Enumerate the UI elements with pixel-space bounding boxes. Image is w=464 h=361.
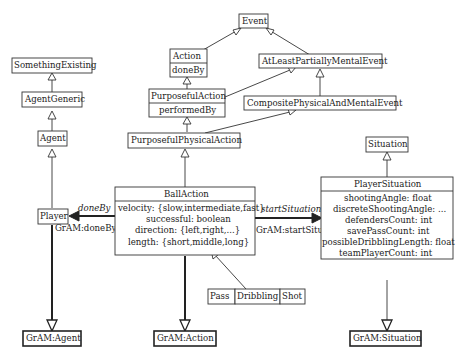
class-purposeful-action: PurposefulAction performedBy <box>149 89 226 117</box>
subtypes-box: Pass Dribbling Shot <box>208 289 305 304</box>
svg-text:Agent: Agent <box>39 133 66 143</box>
generalization-arrow-icon <box>266 28 274 35</box>
svg-text:Situation: Situation <box>368 139 408 149</box>
class-gram-action: GrAM:Action <box>154 331 216 346</box>
generalization-arrow-icon <box>48 111 56 119</box>
class-event: Event <box>239 14 268 28</box>
ball-action-attr: direction: {left,right,...} <box>135 225 240 235</box>
svg-text:Event: Event <box>242 16 268 26</box>
svg-text:doneBy: doneBy <box>172 65 205 75</box>
svg-text:CompositePhysicalAndMentalEven: CompositePhysicalAndMentalEvent <box>247 98 403 108</box>
svg-text:GrAM:Agent: GrAM:Agent <box>26 333 81 343</box>
class-situation: Situation <box>366 137 408 152</box>
ball-action-attr: length: {short,middle,long} <box>128 237 249 247</box>
player-situation-attr: discreteShootingAngle: ... <box>333 204 446 214</box>
ball-action-attr: successful: boolean <box>146 214 231 224</box>
generalization-arrow-icon <box>383 152 391 160</box>
class-at-least-partially-mental-event: AtLeastPartiallyMentalEvent <box>259 54 388 68</box>
class-something-existing: SomethingExisting <box>12 58 97 73</box>
player-situation-attr: teamPlayerCount: int <box>339 248 433 258</box>
svg-text:SomethingExisting: SomethingExisting <box>14 60 97 70</box>
ball-action-attr: velocity: {slow,intermediate,fast} <box>117 203 265 213</box>
edge-subtypes-ballaction <box>215 255 246 289</box>
subtype-shot: Shot <box>282 291 303 301</box>
svg-text:GrAM:Situation: GrAM:Situation <box>353 333 422 343</box>
doneby-mapping-label: GrAM:doneBy <box>55 223 116 233</box>
subtype-pass: Pass <box>210 291 229 301</box>
player-situation-attr: shootingAngle: float <box>344 193 432 203</box>
edge-mental-event <box>269 30 310 55</box>
svg-text:performedBy: performedBy <box>159 105 216 115</box>
class-agent-generic: AgentGeneric <box>22 92 85 107</box>
player-situation-title: PlayerSituation <box>354 179 422 189</box>
svg-text:Player: Player <box>40 211 69 221</box>
generalization-arrow-icon <box>183 77 191 84</box>
class-action: Action doneBy <box>170 49 207 77</box>
svg-text:PurposefulAction: PurposefulAction <box>151 91 226 101</box>
class-player-situation: PlayerSituation shootingAngle: float dis… <box>321 177 455 259</box>
svg-text:AgentGeneric: AgentGeneric <box>24 94 85 104</box>
generalization-arrow-icon <box>233 28 241 35</box>
class-purposeful-physical-action: PurposefulPhysicalAction <box>128 133 242 148</box>
generalization-arrow-icon <box>181 149 189 157</box>
startsituation-label: startSituation <box>261 204 321 214</box>
doneby-label: doneBy <box>78 203 111 213</box>
mapping-arrow-icon <box>180 320 190 331</box>
generalization-arrow-icon <box>183 117 191 124</box>
class-ball-action: BallAction velocity: {slow,intermediate,… <box>115 187 265 255</box>
player-situation-attr: savePassCount: int <box>347 226 430 236</box>
generalization-arrow-icon <box>316 69 324 77</box>
class-gram-agent: GrAM:Agent <box>23 331 81 346</box>
class-player: Player <box>38 209 69 224</box>
svg-text:PurposefulPhysicalAction: PurposefulPhysicalAction <box>131 135 242 145</box>
subtype-dribbling: Dribbling <box>237 291 279 301</box>
svg-text:GrAM:Action: GrAM:Action <box>157 333 214 343</box>
generalization-arrow-icon <box>48 149 56 157</box>
uml-diagram: doneBy GrAM:doneBy startSituation GrAM:s… <box>0 0 464 361</box>
player-situation-attr: defendersCount: int <box>345 215 433 225</box>
mapping-arrow-icon <box>47 320 57 331</box>
svg-text:Action: Action <box>172 51 201 61</box>
edge-purposefulaction-mental <box>225 70 290 97</box>
class-agent: Agent <box>38 131 67 146</box>
generalization-arrow-icon <box>48 73 56 80</box>
ball-action-title: BallAction <box>164 189 209 199</box>
svg-text:AtLeastPartiallyMentalEvent: AtLeastPartiallyMentalEvent <box>261 56 388 66</box>
class-composite-physical-and-mental-event: CompositePhysicalAndMentalEvent <box>244 96 403 110</box>
player-situation-attr: possibleDribblingLength: float <box>322 237 455 247</box>
class-gram-situation: GrAM:Situation <box>350 331 422 346</box>
association-arrow-icon <box>312 213 322 223</box>
mapping-arrow-icon <box>382 320 392 331</box>
edge-action-event <box>203 30 238 50</box>
